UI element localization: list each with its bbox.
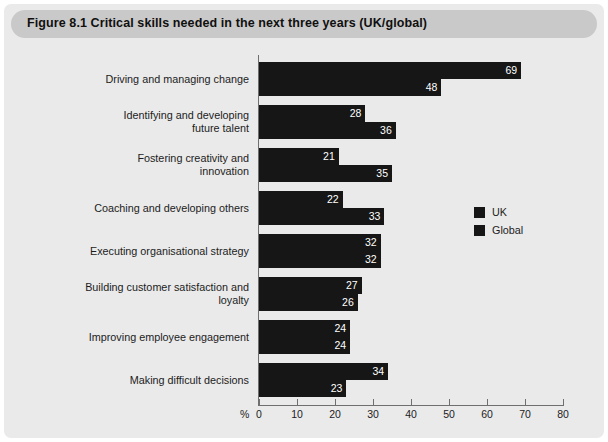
bar-global: 26: [259, 294, 358, 311]
bar-value-label: 36: [380, 123, 392, 138]
x-axis-tick-mark: [373, 399, 374, 406]
x-axis-tick-label: 70: [519, 408, 531, 420]
bar-global: 24: [259, 337, 350, 354]
category-label: Driving and managing change: [106, 73, 249, 86]
x-axis-tick-mark: [525, 399, 526, 406]
figure-frame: Figure 8.1 Critical skills needed in the…: [4, 4, 604, 438]
bar-uk: 69: [259, 62, 521, 79]
category-label: Making difficult decisions: [130, 374, 249, 387]
category-label: Building customer satisfaction and loyal…: [85, 281, 249, 307]
bar-value-label: 22: [327, 192, 339, 207]
bar-value-label: 48: [426, 80, 438, 95]
legend-label: Global: [492, 224, 523, 236]
bar-uk: 21: [259, 148, 339, 165]
bar-uk: 24: [259, 320, 350, 337]
bar-uk: 27: [259, 277, 362, 294]
category-label: Improving employee engagement: [89, 331, 249, 344]
bar-value-label: 21: [323, 149, 335, 164]
x-axis-tick-mark: [487, 399, 488, 406]
x-axis-tick-label: 80: [557, 408, 569, 420]
bar-global: 35: [259, 165, 392, 182]
x-axis-tick-label: 20: [329, 408, 341, 420]
bar-global: 48: [259, 79, 441, 96]
bar-value-label: 27: [346, 278, 358, 293]
x-axis-tick-label: 60: [481, 408, 493, 420]
category-label: Fostering creativity and innovation: [137, 152, 249, 178]
category-label: Executing organisational strategy: [90, 245, 249, 258]
bar-uk: 34: [259, 363, 388, 380]
bar-global: 23: [259, 380, 346, 397]
square-swatch-icon: [474, 225, 485, 236]
bar-global: 32: [259, 251, 381, 268]
category-label: Identifying and developing future talent: [124, 109, 249, 135]
chart-plot-area: 01020304050607080 % Driving and managing…: [4, 4, 604, 438]
x-axis-tick-label: 10: [291, 408, 303, 420]
square-swatch-icon: [474, 207, 485, 218]
bar-value-label: 32: [365, 235, 377, 250]
bar-value-label: 23: [331, 381, 343, 396]
bar-value-label: 69: [506, 63, 518, 78]
bar-value-label: 32: [365, 252, 377, 267]
bar-value-label: 33: [369, 209, 381, 224]
bar-value-label: 35: [376, 166, 388, 181]
x-axis-unit-label: %: [240, 408, 249, 420]
legend-item: UK: [474, 203, 523, 221]
bar-value-label: 24: [335, 338, 347, 353]
chart-legend: UKGlobal: [474, 203, 523, 239]
x-axis-tick-mark: [563, 399, 564, 406]
x-axis-tick-label: 0: [256, 408, 262, 420]
bar-value-label: 24: [335, 321, 347, 336]
bar-global: 36: [259, 122, 396, 139]
bar-uk: 28: [259, 105, 365, 122]
bar-global: 33: [259, 208, 384, 225]
bar-value-label: 26: [342, 295, 354, 310]
bar-uk: 22: [259, 191, 343, 208]
x-axis-tick-mark: [259, 399, 260, 406]
x-axis-tick-mark: [297, 399, 298, 406]
bar-value-label: 34: [373, 364, 385, 379]
x-axis-tick-mark: [449, 399, 450, 406]
x-axis-tick-label: 30: [367, 408, 379, 420]
bar-uk: 32: [259, 234, 381, 251]
x-axis-tick-label: 50: [443, 408, 455, 420]
legend-label: UK: [492, 206, 507, 218]
legend-item: Global: [474, 221, 523, 239]
category-label: Coaching and developing others: [94, 202, 249, 215]
bar-value-label: 28: [350, 106, 362, 121]
x-axis-tick-mark: [411, 399, 412, 406]
x-axis-tick-label: 40: [405, 408, 417, 420]
x-axis-tick-mark: [335, 399, 336, 406]
